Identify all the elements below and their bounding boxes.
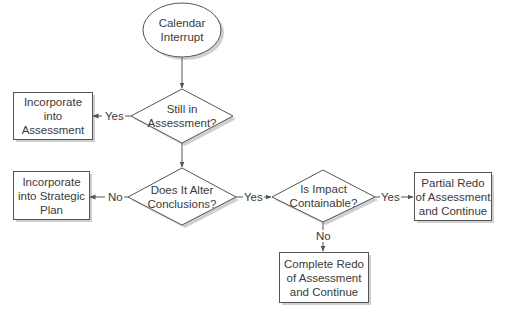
partial-line-2: of Assessment [416, 190, 491, 204]
alter-line-1: Does It Alter [147, 183, 216, 197]
shapes [14, 3, 492, 303]
incorp-assess-line-1: Incorporate [22, 95, 85, 109]
edge-label-impact-yes: Yes [380, 191, 401, 203]
incorp-strat-line-1: Incorporate [18, 175, 85, 189]
still-in-assessment-label: Still in Assessment? [131, 89, 233, 143]
edge-label-impact-no: No [315, 230, 332, 242]
start-line-1: Calendar [159, 16, 206, 30]
incorp-assess-line-3: Assessment [22, 123, 85, 137]
alter-line-2: Conclusions? [147, 197, 216, 211]
edge-label-still-yes: Yes [104, 110, 125, 122]
shadows [16, 6, 494, 305]
partial-redo-label: Partial Redo of Assessment and Continue [414, 172, 492, 221]
incorp-strat-line-3: Plan [18, 203, 85, 217]
complete-line-3: and Continue [284, 285, 364, 299]
incorporate-assessment-label: Incorporate into Assessment [13, 92, 93, 140]
complete-line-2: of Assessment [284, 271, 364, 285]
alter-conclusions-label: Does It Alter Conclusions? [128, 168, 236, 225]
partial-line-3: and Continue [416, 204, 491, 218]
still-line-2: Assessment? [147, 116, 216, 130]
still-line-1: Still in [147, 102, 216, 116]
partial-line-1: Partial Redo [416, 176, 491, 190]
complete-line-1: Complete Redo [284, 257, 364, 271]
impact-line-1: Is Impact [290, 182, 358, 196]
incorp-assess-line-2: into [22, 109, 85, 123]
incorp-strat-line-2: into Strategic [18, 189, 85, 203]
complete-redo-label: Complete Redo of Assessment and Continue [279, 252, 369, 303]
impact-containable-label: Is Impact Containable? [272, 170, 375, 222]
start-node-label: Calendar Interrupt [143, 3, 221, 57]
impact-line-2: Containable? [290, 196, 358, 210]
edge-label-alter-yes: Yes [243, 191, 264, 203]
edge-label-alter-no: No [107, 191, 124, 203]
flowchart-canvas [0, 0, 507, 316]
incorporate-strategic-label: Incorporate into Strategic Plan [13, 171, 90, 220]
start-line-2: Interrupt [159, 30, 206, 44]
